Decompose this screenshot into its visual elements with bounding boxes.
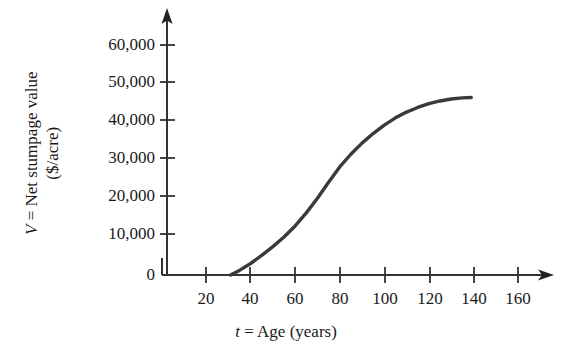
y-axis-title: V = Net stumpage value ($/acre) [21,23,64,283]
chart-figure: 60,000 50,000 40,000 30,000 20,000 10,00… [0,0,572,354]
y-axis-title-units: ($/acre) [42,23,63,283]
x-tick-label-160: 160 [488,290,548,307]
y-axis-variable: V [22,225,41,235]
x-axis-title-text: = Age (years) [240,322,337,341]
y-axis-title-text: = Net stumpage value [22,72,41,225]
x-axis-tick-labels: 20 40 60 80 100 120 140 160 [0,0,572,354]
x-axis-title: t = Age (years) [0,322,572,342]
